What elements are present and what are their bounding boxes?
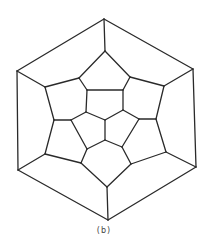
edge-b2-m3 bbox=[156, 119, 166, 152]
edge-o6-m6 bbox=[17, 71, 45, 87]
edge-o1-o2 bbox=[104, 19, 193, 69]
edge-o4-o5 bbox=[18, 170, 108, 220]
edge-o3-o4 bbox=[108, 167, 196, 220]
polyhedron-diagram bbox=[0, 0, 208, 248]
edge-o4-m4 bbox=[107, 187, 108, 220]
edge-m5-c1 bbox=[45, 154, 81, 163]
edge-o6-o1 bbox=[17, 19, 104, 71]
edge-a2-i2 bbox=[123, 77, 130, 90]
edge-c2-j4 bbox=[122, 147, 131, 164]
edge-group bbox=[17, 19, 196, 220]
edge-j5-j4 bbox=[105, 140, 122, 147]
edge-m1-a1 bbox=[79, 51, 105, 78]
edge-o5-m5 bbox=[18, 154, 45, 170]
edge-m2-b2 bbox=[156, 86, 164, 119]
edge-m6-b1 bbox=[45, 87, 54, 120]
edge-j3-j1 bbox=[71, 120, 87, 149]
edge-o3-m3 bbox=[166, 152, 196, 167]
edge-a1-m6 bbox=[45, 78, 79, 87]
edge-a1-i1 bbox=[79, 78, 87, 90]
edge-c1-j3 bbox=[81, 149, 87, 163]
edge-i3-i4 bbox=[105, 110, 123, 120]
edge-j3-j5 bbox=[87, 140, 105, 149]
edge-c2-m3 bbox=[131, 152, 166, 164]
edge-j1-i5 bbox=[71, 112, 86, 120]
edge-m1-a2 bbox=[105, 51, 130, 77]
edge-m4-c2 bbox=[107, 164, 131, 187]
edge-a2-m2 bbox=[130, 77, 164, 86]
edge-o2-m2 bbox=[164, 69, 193, 86]
edge-i4-i5 bbox=[86, 112, 105, 120]
edge-o1-m1 bbox=[104, 19, 105, 51]
edge-j2-i3 bbox=[123, 110, 139, 119]
edge-b1-m5 bbox=[45, 120, 54, 154]
figure-caption: (b) bbox=[0, 226, 208, 235]
edge-o2-o3 bbox=[193, 69, 196, 167]
edge-i5-i1 bbox=[86, 90, 87, 112]
edge-o5-o6 bbox=[17, 71, 18, 170]
edge-j4-j2 bbox=[122, 119, 139, 147]
edge-c1-m4 bbox=[81, 163, 107, 187]
